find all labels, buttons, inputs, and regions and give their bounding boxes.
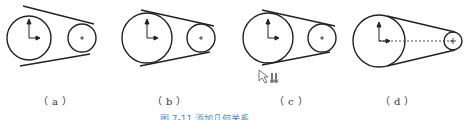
- panel-label-d: （d）: [380, 93, 418, 108]
- panel-label-c: （c）: [274, 93, 312, 108]
- figure-caption: 图 7-11 添加几何关系: [160, 112, 249, 120]
- panel-label-b: （b）: [152, 93, 190, 108]
- cursor-icon: [259, 70, 278, 83]
- panel-a-drawing: [7, 6, 96, 66]
- tangent-constraint-icon: [270, 73, 278, 83]
- panel-d-drawing: [353, 15, 462, 67]
- panel-label-a: （a）: [38, 93, 76, 108]
